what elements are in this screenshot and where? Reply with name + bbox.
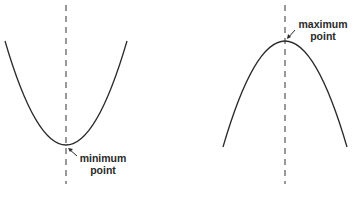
parabola-diagram: minimum point maximum point [0,0,353,201]
minimum-label-line2: point [90,164,116,176]
minimum-diagram: minimum point [5,5,127,184]
maximum-diagram: maximum point [223,5,348,184]
maximum-label-line1: maximum [298,18,347,30]
minimum-label-line1: minimum [80,152,127,164]
maximum-label-line2: point [310,30,336,42]
